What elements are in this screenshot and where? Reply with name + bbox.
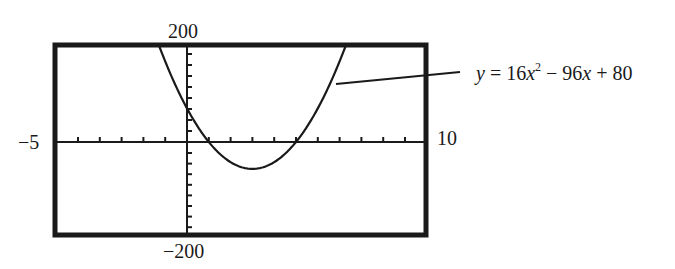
y-max-label: 200 xyxy=(168,21,198,41)
annotation-leader-line xyxy=(336,72,460,84)
x-min-label: −5 xyxy=(18,132,39,152)
parabola-curve xyxy=(152,27,353,169)
x-max-label: 10 xyxy=(437,128,457,148)
viewing-window-frame xyxy=(55,45,426,235)
function-equation-label: y = 16x2 − 96x + 80 xyxy=(476,60,633,85)
y-min-label: −200 xyxy=(163,241,204,261)
graph-canvas xyxy=(0,0,675,269)
